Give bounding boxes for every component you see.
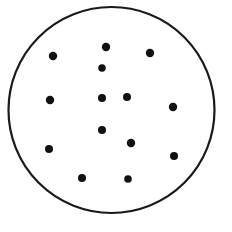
background [0,0,232,232]
figure-canvas [0,0,232,232]
dot-1 [102,43,110,51]
dot-13 [78,174,86,182]
dot-6 [98,94,106,102]
dot-7 [123,93,131,101]
circle-with-dots-figure [0,0,232,232]
dot-8 [169,103,177,111]
dot-5 [46,96,54,104]
dot-4 [98,64,106,72]
dot-12 [170,152,178,160]
dot-11 [127,139,135,147]
dot-14 [124,175,132,183]
dot-10 [45,145,53,153]
dot-9 [98,126,106,134]
dot-3 [146,49,154,57]
dot-2 [49,52,57,60]
